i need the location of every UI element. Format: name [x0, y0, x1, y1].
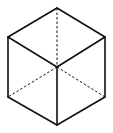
edge-lower_right-bottom	[57, 97, 105, 125]
edge-upper_left-center	[8, 37, 57, 67]
hidden-edge-center-lower_right	[57, 67, 105, 97]
edge-upper_right-center	[57, 37, 105, 67]
cube-diagram	[0, 0, 113, 133]
edge-top-upper_left	[8, 8, 57, 37]
edge-top-upper_right	[57, 8, 105, 37]
edge-lower_left-bottom	[8, 97, 57, 125]
hidden-edge-center-lower_left	[8, 67, 57, 97]
